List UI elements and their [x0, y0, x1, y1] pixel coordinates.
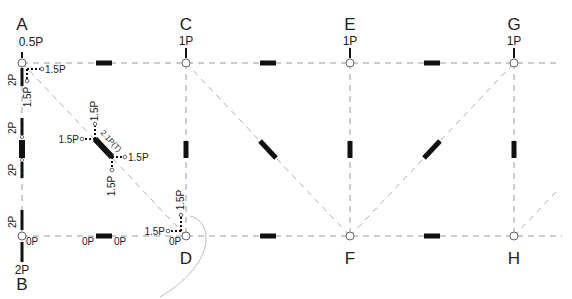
node-label-b: B: [16, 275, 27, 294]
joint-g: [510, 59, 518, 67]
arrow-head-icon: [179, 213, 183, 217]
diagonal-member-h-right: [514, 192, 556, 236]
load-label-a: 0.5P: [19, 35, 44, 49]
joint-d: [182, 232, 190, 240]
force-label-a-vertical: 1.5P: [22, 86, 33, 107]
node-label-e: E: [344, 15, 355, 34]
force-label-ad-lower-horizontal: 1.5P: [128, 152, 149, 163]
node-label-h: H: [508, 249, 520, 268]
node-label-c: C: [180, 15, 192, 34]
arrow-head-icon: [166, 229, 170, 233]
truss-diagram: A B C D E F G H 0.5P 1P 1P 1P 2P 2P 2P 2…: [0, 0, 572, 299]
member-mark-fg: [424, 141, 440, 158]
joint-e: [346, 59, 354, 67]
force-label-a-horizontal: 1.5P: [45, 64, 66, 75]
node-label-g: G: [507, 15, 520, 34]
arrow-head-icon: [40, 67, 44, 71]
force-label-b-bottom-chord: 0P: [26, 236, 39, 247]
force-label-d-vertical: 1.5P: [175, 189, 186, 210]
node-label-d: D: [180, 249, 192, 268]
force-label-ad-lower-vertical: 1.5P: [106, 175, 117, 196]
arrow-head-icon: [80, 137, 84, 141]
load-label-g: 1P: [507, 34, 522, 48]
section-mark: [20, 158, 23, 161]
load-label-c: 1P: [179, 34, 194, 48]
node-label-f: F: [345, 249, 355, 268]
arrow-head-icon: [25, 79, 29, 83]
arrow-head-icon: [93, 122, 97, 126]
force-label-ab-mid-top: 2P: [7, 122, 18, 135]
joint-h: [510, 232, 518, 240]
force-label-ab-mid-bottom: 2P: [7, 164, 18, 177]
reaction-label-b: 2P: [15, 263, 30, 277]
arrow-head-icon: [110, 168, 114, 172]
force-label-ab-lower: 2P: [7, 216, 18, 229]
force-label-bd-right: 0P: [114, 236, 127, 247]
force-label-ad-upper-horizontal: 1.5P: [58, 134, 79, 145]
force-label-ad-upper-vertical: 1.5P: [89, 100, 100, 121]
force-label-bd-left: 0P: [82, 236, 95, 247]
arrow-head-icon: [123, 155, 127, 159]
node-label-a: A: [16, 15, 28, 34]
force-label-d-bottom-chord: 0P: [169, 236, 182, 247]
force-label-ab-upper: 2P: [7, 74, 18, 87]
joint-c: [182, 59, 190, 67]
load-label-e: 1P: [343, 34, 358, 48]
joint-a: [18, 59, 26, 67]
member-mark-cf: [260, 141, 276, 158]
force-label-d-horizontal: 1.5P: [144, 226, 165, 237]
joint-b: [18, 232, 26, 240]
joint-f: [346, 232, 354, 240]
section-mark: [20, 135, 23, 138]
